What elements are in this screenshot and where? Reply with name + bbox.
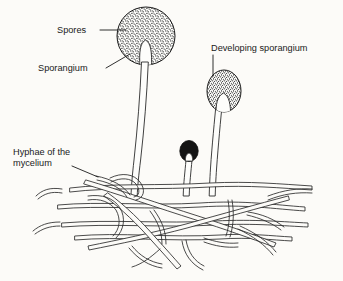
mature-sporangium bbox=[117, 7, 175, 68]
mature-sporangiophore bbox=[131, 62, 148, 196]
diagram-canvas: Spores Sporangium Developing sporangium … bbox=[0, 0, 343, 281]
leader-hyphae bbox=[72, 166, 98, 177]
leader-sporangium bbox=[106, 54, 130, 68]
developing-stalk bbox=[209, 100, 222, 196]
hypha-tip-1b bbox=[38, 192, 62, 199]
hypha-tip-4 bbox=[186, 240, 204, 266]
label-spores: Spores bbox=[57, 25, 87, 35]
label-sporangium: Sporangium bbox=[38, 63, 88, 73]
hypha-tip-4b bbox=[182, 241, 203, 270]
label-hyphae-line2: mycelium bbox=[13, 158, 52, 168]
young-stalk bbox=[183, 160, 192, 196]
mycelium bbox=[33, 175, 312, 270]
label-hyphae-line1: Hyphae of the bbox=[13, 147, 70, 157]
label-developing-sporangium: Developing sporangium bbox=[211, 43, 308, 53]
mature-stalk bbox=[131, 62, 148, 196]
mould-diagram-figure: Spores Sporangium Developing sporangium … bbox=[0, 0, 343, 281]
developing-sporangium bbox=[207, 70, 241, 196]
hypha-tip-3 bbox=[132, 246, 162, 264]
